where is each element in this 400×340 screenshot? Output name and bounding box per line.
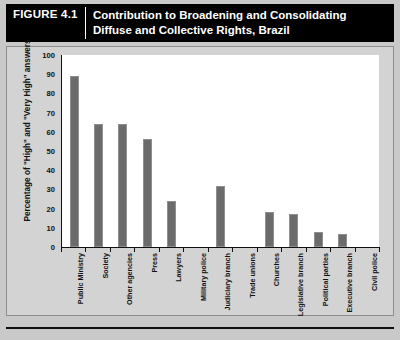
x-label-slot: Trade unions	[232, 253, 256, 315]
bar	[216, 186, 225, 247]
x-tick-label: Political parties	[321, 253, 330, 306]
figure-number: FIGURE 4.1	[6, 4, 85, 42]
x-tick-label: Legislative branch	[296, 253, 305, 316]
bar	[289, 214, 298, 247]
y-tick-label: 30	[47, 185, 55, 194]
x-axis-labels: Public MinistrySocietyOther agenciesPres…	[61, 253, 379, 315]
x-tick-label: Churches	[272, 253, 281, 286]
y-tick-label: 60	[47, 127, 55, 136]
x-label-slot: Lawyers	[159, 253, 183, 315]
bar-slot	[184, 55, 208, 247]
x-tick-label: Trade unions	[248, 253, 257, 298]
x-tick-mark	[330, 247, 331, 252]
y-axis-title: Percentage of "High" and "Very High" ans…	[23, 54, 32, 222]
y-axis-ticks: 0102030405060708090100	[33, 55, 55, 247]
x-tick-mark	[85, 247, 86, 252]
y-tick-label: 50	[47, 147, 55, 156]
x-label-slot: Public Ministry	[61, 253, 85, 315]
bar-slot	[135, 55, 159, 247]
y-tick-label: 0	[51, 243, 55, 252]
x-tick-label: Civil police	[370, 253, 379, 291]
bar	[314, 232, 323, 247]
bar-slot	[208, 55, 232, 247]
x-tick-label: Judiciary branch	[223, 253, 232, 311]
x-tick-mark	[379, 247, 380, 252]
x-tick-label: Military police	[199, 253, 208, 301]
bar-slot	[355, 55, 379, 247]
x-tick-mark	[257, 247, 258, 252]
bar-slot	[306, 55, 330, 247]
x-label-slot: Judiciary branch	[208, 253, 232, 315]
x-tick-mark	[159, 247, 160, 252]
x-tick-mark	[355, 247, 356, 252]
x-tick-label: Executive branch	[345, 253, 354, 313]
x-tick-mark	[281, 247, 282, 252]
bar-series	[62, 55, 379, 247]
bar	[94, 124, 103, 247]
x-label-slot: Churches	[257, 253, 281, 315]
x-tick-label: Other agencies	[125, 253, 134, 305]
x-tick-label: Press	[150, 253, 159, 273]
x-tick-label: Public Ministry	[76, 253, 85, 304]
x-tick-label: Lawyers	[174, 253, 183, 282]
bar	[70, 76, 79, 247]
x-tick-mark	[61, 247, 62, 252]
x-tick-mark	[183, 247, 184, 252]
x-tick-mark	[134, 247, 135, 252]
bar-slot	[160, 55, 184, 247]
bottom-rule	[6, 327, 394, 329]
x-tick-mark	[110, 247, 111, 252]
x-label-slot: Military police	[183, 253, 207, 315]
x-tick-label: Society	[101, 253, 110, 279]
y-tick-label: 70	[47, 108, 55, 117]
bar	[265, 212, 274, 247]
x-label-slot: Political parties	[306, 253, 330, 315]
bar-slot	[111, 55, 135, 247]
x-tick-mark	[208, 247, 209, 252]
x-label-slot: Civil police	[355, 253, 379, 315]
y-tick-label: 10	[47, 223, 55, 232]
x-label-slot: Press	[134, 253, 158, 315]
y-tick-label: 20	[47, 204, 55, 213]
bar-slot	[330, 55, 354, 247]
x-label-slot: Society	[85, 253, 109, 315]
x-axis-ticks	[61, 247, 379, 252]
y-tick-label: 90	[47, 70, 55, 79]
plot-area	[61, 55, 379, 248]
figure-container: FIGURE 4.1 Contribution to Broadening an…	[0, 0, 400, 340]
bar	[338, 234, 347, 247]
x-tick-mark	[306, 247, 307, 252]
chart-panel: Percentage of "High" and "Very High" ans…	[6, 46, 394, 316]
x-label-slot: Other agencies	[110, 253, 134, 315]
figure-header: FIGURE 4.1 Contribution to Broadening an…	[6, 4, 394, 42]
x-label-slot: Executive branch	[330, 253, 354, 315]
bar-slot	[62, 55, 86, 247]
y-tick-label: 80	[47, 89, 55, 98]
x-label-slot: Legislative branch	[281, 253, 305, 315]
bar	[167, 201, 176, 247]
bar-slot	[86, 55, 110, 247]
plot-outer: Percentage of "High" and "Very High" ans…	[7, 47, 393, 315]
bar	[118, 124, 127, 247]
bar-slot	[233, 55, 257, 247]
y-tick-label: 40	[47, 166, 55, 175]
bar	[143, 139, 152, 247]
bar-slot	[257, 55, 281, 247]
x-tick-mark	[232, 247, 233, 252]
y-tick-label: 100	[42, 51, 55, 60]
bar-slot	[282, 55, 306, 247]
figure-title: Contribution to Broadening and Consolida…	[86, 4, 394, 42]
